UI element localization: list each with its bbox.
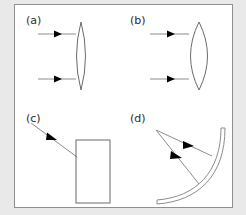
panel-b-label: (b) [130,14,146,27]
panel-b: (b) [130,14,208,90]
panel-c-ray [31,123,77,157]
arrowhead-icon [170,151,182,159]
thick-biconvex-lens-icon [191,22,208,90]
arrowhead-icon [46,133,57,141]
panel-a-label: (a) [26,14,41,27]
arrowhead-icon [54,31,62,38]
thin-biconvex-lens-icon [77,22,86,90]
arrowhead-icon [54,76,62,83]
arrowhead-icon [167,76,175,83]
mirror-back-surface [157,128,225,204]
panel-d-rays [156,130,212,184]
panel-c-label: (c) [26,112,41,125]
mirror-front-surface [157,128,221,200]
panel-d: (d) [130,112,225,204]
arrowhead-icon [183,141,194,149]
panel-c: (c) [26,112,110,203]
arrowhead-icon [167,31,175,38]
panel-d-label: (d) [130,112,146,125]
panel-a: (a) [26,14,86,90]
figure-canvas: (a) (b) (c) [0,0,246,215]
rectangular-block-icon [76,140,110,203]
panel-a-rays [38,31,76,83]
optics-figure: (a) (b) (c) [0,0,246,215]
panel-b-rays [150,31,189,83]
concave-mirror-icon [157,128,225,204]
